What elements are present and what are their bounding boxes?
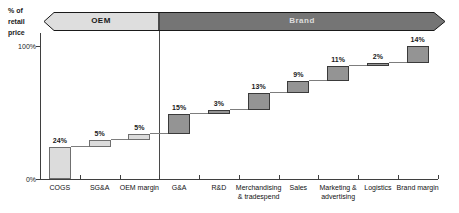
bar-value-label: 9% xyxy=(283,70,313,79)
connector-line xyxy=(71,146,89,147)
x-axis-tick xyxy=(398,175,399,179)
x-axis-tick xyxy=(199,175,200,179)
connector-line xyxy=(309,80,327,81)
waterfall-bar-oem-margin xyxy=(128,134,150,141)
connector-line xyxy=(230,109,248,110)
connector-line xyxy=(150,133,168,134)
y-axis-tick xyxy=(36,179,40,180)
bar-value-label: 11% xyxy=(323,55,353,64)
oem-banner-label: OEM xyxy=(61,16,141,25)
waterfall-bar-sg-a xyxy=(89,140,111,147)
category-label: Brand margin xyxy=(391,184,445,193)
x-axis-tick xyxy=(318,175,319,179)
y-axis-tick-label: 0% xyxy=(10,175,36,184)
waterfall-bar-g-a xyxy=(168,114,190,134)
oem-brand-divider-line xyxy=(159,31,160,179)
bar-value-label: 5% xyxy=(124,123,154,132)
x-axis-line xyxy=(40,179,438,180)
bar-value-label: 5% xyxy=(85,129,115,138)
bar-value-label: 15% xyxy=(164,103,194,112)
connector-line xyxy=(270,92,288,93)
y-axis-line xyxy=(40,33,41,180)
x-axis-tick xyxy=(358,175,359,179)
waterfall-bar-logistics xyxy=(367,63,389,66)
category-label-line: Brand margin xyxy=(391,184,445,193)
waterfall-bar-brand-margin xyxy=(407,46,429,63)
category-label-line: & tradespend xyxy=(232,193,286,202)
waterfall-bar-marketing-advertising xyxy=(327,66,349,81)
bar-value-label: 3% xyxy=(204,99,234,108)
x-axis-tick xyxy=(40,175,41,179)
connector-line xyxy=(190,113,208,114)
waterfall-chart: % of retail price OEM Brand 24%COGS5%SG&… xyxy=(0,0,459,213)
connector-line xyxy=(349,65,367,66)
brand-banner-label: Brand xyxy=(262,16,342,25)
waterfall-bar-r-d xyxy=(208,110,230,114)
x-axis-tick xyxy=(80,175,81,179)
waterfall-bar-cogs xyxy=(49,147,71,179)
connector-line xyxy=(111,139,129,140)
bar-value-label: 14% xyxy=(403,35,433,44)
bar-value-label: 2% xyxy=(363,52,393,61)
connector-line xyxy=(389,62,407,63)
x-axis-tick xyxy=(159,175,160,179)
bar-value-label: 13% xyxy=(244,82,274,91)
y-axis-tick-label: 100% xyxy=(10,42,36,51)
x-axis-tick xyxy=(120,175,121,179)
waterfall-bar-merchandising-tradespend xyxy=(248,93,270,110)
category-label-line: advertising xyxy=(311,193,365,202)
x-axis-tick xyxy=(438,175,439,179)
x-axis-tick xyxy=(279,175,280,179)
y-axis-tick xyxy=(36,46,40,47)
bar-value-label: 24% xyxy=(45,136,75,145)
waterfall-bar-sales xyxy=(287,81,309,93)
x-axis-tick xyxy=(239,175,240,179)
